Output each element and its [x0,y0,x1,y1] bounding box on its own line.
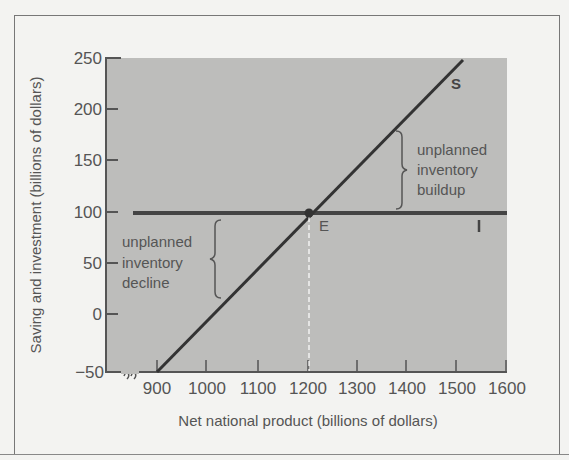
svg-text:−50: −50 [75,363,104,382]
svg-text:900: 900 [143,379,171,398]
axis-break-gap [121,370,139,374]
saving-line-label: S [451,75,461,92]
svg-text:unplanned: unplanned [122,233,192,250]
svg-text:0: 0 [93,305,102,324]
svg-text:100: 100 [74,203,102,222]
svg-text:1000: 1000 [188,379,226,398]
svg-text:decline: decline [122,274,170,291]
svg-text:buildup: buildup [417,181,465,198]
svg-text:150: 150 [74,151,102,170]
svg-text:200: 200 [74,100,102,119]
svg-text:unplanned: unplanned [417,141,487,158]
y-tick-labels: 250 200 150 100 50 0 −50 [74,49,104,382]
svg-text:1600: 1600 [488,379,526,398]
svg-text:1400: 1400 [388,379,426,398]
svg-text:1500: 1500 [438,379,476,398]
svg-text:250: 250 [74,49,102,68]
svg-text:1300: 1300 [338,379,376,398]
y-axis-title: Saving and investment (billions of dolla… [27,77,44,354]
svg-text:inventory: inventory [122,254,183,271]
x-tick-labels: 900 1000 1100 1200 1300 1400 1500 1600 [143,379,526,398]
x-axis-title: Net national product (billions of dollar… [178,412,437,429]
svg-text:1100: 1100 [240,379,277,398]
svg-text:inventory: inventory [417,161,478,178]
equilibrium-label: E [319,217,329,234]
chart: 250 200 150 100 50 0 −50 900 1000 1100 1… [0,0,569,460]
svg-text:1200: 1200 [289,379,327,398]
svg-text:50: 50 [83,254,102,273]
equilibrium-point [305,209,314,218]
